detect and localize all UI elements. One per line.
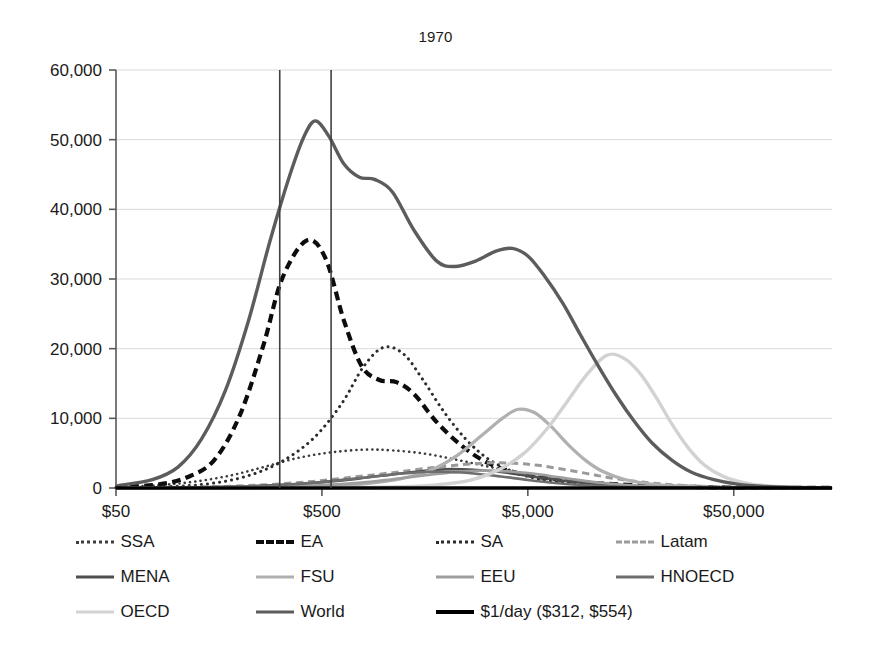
legend-swatch-icon bbox=[616, 570, 654, 584]
legend-label: EA bbox=[301, 532, 324, 552]
series-line-oecd bbox=[116, 354, 832, 488]
legend-item-ssa[interactable]: SSA bbox=[76, 532, 256, 552]
legend-label: SA bbox=[481, 532, 504, 552]
legend-label: MENA bbox=[121, 567, 170, 587]
legend-row: SSAEASALatam bbox=[76, 524, 796, 559]
legend-swatch-icon bbox=[256, 570, 294, 584]
legend-item-fsu[interactable]: FSU bbox=[256, 567, 436, 587]
legend-swatch-icon bbox=[76, 570, 114, 584]
y-tick-label: 0 bbox=[93, 479, 102, 498]
y-tick-label: 10,000 bbox=[50, 409, 102, 428]
legend-swatch-icon bbox=[256, 605, 294, 619]
legend-label: Latam bbox=[661, 532, 708, 552]
legend-swatch-icon bbox=[436, 570, 474, 584]
legend-label: FSU bbox=[301, 567, 335, 587]
y-tick-label: 60,000 bbox=[50, 61, 102, 80]
legend-label: EEU bbox=[481, 567, 516, 587]
legend-item-hnoecd[interactable]: HNOECD bbox=[616, 567, 796, 587]
legend-label: $1/day ($312, $554) bbox=[481, 602, 633, 622]
legend-item-eeu[interactable]: EEU bbox=[436, 567, 616, 587]
series-line-sa bbox=[116, 347, 832, 488]
chart-container: 1970 010,00020,00030,00040,00050,00060,0… bbox=[0, 0, 871, 669]
legend-label: SSA bbox=[121, 532, 155, 552]
x-tick-label: $500 bbox=[303, 502, 341, 520]
legend-swatch-icon bbox=[436, 535, 474, 549]
series-line-world bbox=[116, 121, 832, 488]
chart-legend: SSAEASALatamMENAFSUEEUHNOECDOECDWorld$1/… bbox=[0, 524, 871, 629]
y-tick-label: 20,000 bbox=[50, 340, 102, 359]
legend-item-sa[interactable]: SA bbox=[436, 532, 616, 552]
y-tick-label: 30,000 bbox=[50, 270, 102, 289]
legend-label: OECD bbox=[121, 602, 170, 622]
legend-swatch-icon bbox=[76, 535, 114, 549]
x-tick-label: $50 bbox=[102, 502, 130, 520]
legend-item-latam[interactable]: Latam bbox=[616, 532, 796, 552]
legend-swatch-icon bbox=[616, 535, 654, 549]
legend-label: World bbox=[301, 602, 345, 622]
legend-item-mena[interactable]: MENA bbox=[76, 567, 256, 587]
legend-item-1-day-312-554[interactable]: $1/day ($312, $554) bbox=[436, 602, 681, 622]
x-tick-label: $5,000 bbox=[502, 502, 554, 520]
legend-swatch-icon bbox=[256, 535, 294, 549]
legend-swatch-icon bbox=[76, 605, 114, 619]
legend-item-ea[interactable]: EA bbox=[256, 532, 436, 552]
legend-swatch-icon bbox=[436, 605, 474, 619]
legend-item-world[interactable]: World bbox=[256, 602, 436, 622]
legend-row: MENAFSUEEUHNOECD bbox=[76, 559, 796, 594]
x-tick-label: $50,000 bbox=[703, 502, 764, 520]
legend-label: HNOECD bbox=[661, 567, 735, 587]
y-tick-label: 50,000 bbox=[50, 131, 102, 150]
legend-item-oecd[interactable]: OECD bbox=[76, 602, 256, 622]
series-line-ea bbox=[116, 240, 832, 488]
chart-plot-area: 010,00020,00030,00040,00050,00060,000$50… bbox=[0, 0, 871, 520]
y-tick-label: 40,000 bbox=[50, 200, 102, 219]
legend-row: OECDWorld$1/day ($312, $554) bbox=[76, 594, 796, 629]
